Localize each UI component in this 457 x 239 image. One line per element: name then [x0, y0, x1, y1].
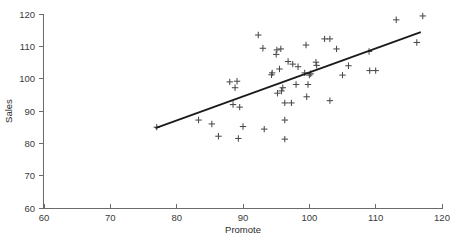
data-point-marker [288, 100, 294, 106]
data-point-marker [215, 133, 221, 139]
data-point-marker [372, 67, 378, 73]
data-point-marker [366, 67, 372, 73]
x-axis-title: Promote [225, 224, 261, 235]
data-point-marker [273, 51, 279, 57]
y-axis: 60708090100110120 [19, 9, 43, 214]
data-point-marker [236, 104, 242, 110]
data-point-marker [255, 32, 261, 38]
plot-area: 60708090100110120 60708090100110120 Prom… [0, 0, 457, 239]
data-point-marker [282, 100, 288, 106]
x-tick-label: 120 [434, 212, 450, 223]
y-tick-label: 90 [24, 106, 35, 117]
data-point-marker [280, 85, 286, 91]
data-point-marker [313, 62, 319, 68]
data-point-marker [305, 81, 311, 87]
data-point-marker [232, 85, 238, 91]
y-tick-label: 120 [19, 9, 35, 20]
y-tick-label: 60 [24, 203, 35, 214]
data-point-marker [234, 78, 240, 84]
data-point-marker [414, 39, 420, 45]
data-point-marker [227, 79, 233, 85]
data-point-marker [195, 117, 201, 123]
y-axis-title: Sales [3, 99, 14, 123]
data-point-marker [209, 121, 215, 127]
y-tick-label: 110 [20, 41, 35, 52]
x-tick-label: 60 [39, 212, 50, 223]
data-point-marker [240, 123, 246, 129]
data-point-marker [293, 81, 299, 87]
x-axis: 60708090100110120 [39, 204, 450, 224]
scatter-chart: 60708090100110120 60708090100110120 Prom… [0, 0, 457, 239]
x-tick-label: 80 [171, 212, 182, 223]
data-point-marker [313, 59, 319, 65]
data-point-marker [333, 46, 339, 52]
x-tick-label: 90 [238, 212, 249, 223]
y-tick-label: 70 [24, 170, 35, 181]
x-tick-label: 100 [301, 212, 317, 223]
data-point-marker [327, 97, 333, 103]
data-point-marker [393, 17, 399, 23]
data-point-marker [260, 45, 266, 51]
x-axis-ticks: 60708090100110120 [39, 204, 450, 224]
data-point-marker [274, 47, 280, 53]
data-point-marker [345, 63, 351, 69]
regression-line [155, 32, 420, 128]
data-point-marker [303, 94, 309, 100]
data-point-marker [339, 72, 345, 78]
data-point-marker [420, 13, 426, 19]
data-point-marker [276, 66, 282, 72]
y-tick-label: 100 [19, 73, 35, 84]
data-point-marker [327, 36, 333, 42]
data-points [154, 13, 426, 143]
y-axis-ticks: 60708090100110120 [19, 9, 43, 214]
data-point-marker [282, 117, 288, 123]
data-point-marker [303, 42, 309, 48]
data-point-marker [261, 126, 267, 132]
x-tick-label: 70 [105, 212, 116, 223]
data-point-marker [282, 136, 288, 142]
data-point-marker [278, 46, 284, 52]
data-point-marker [235, 135, 241, 141]
y-tick-label: 80 [24, 138, 35, 149]
data-point-marker [230, 101, 236, 107]
x-tick-label: 110 [368, 212, 383, 223]
